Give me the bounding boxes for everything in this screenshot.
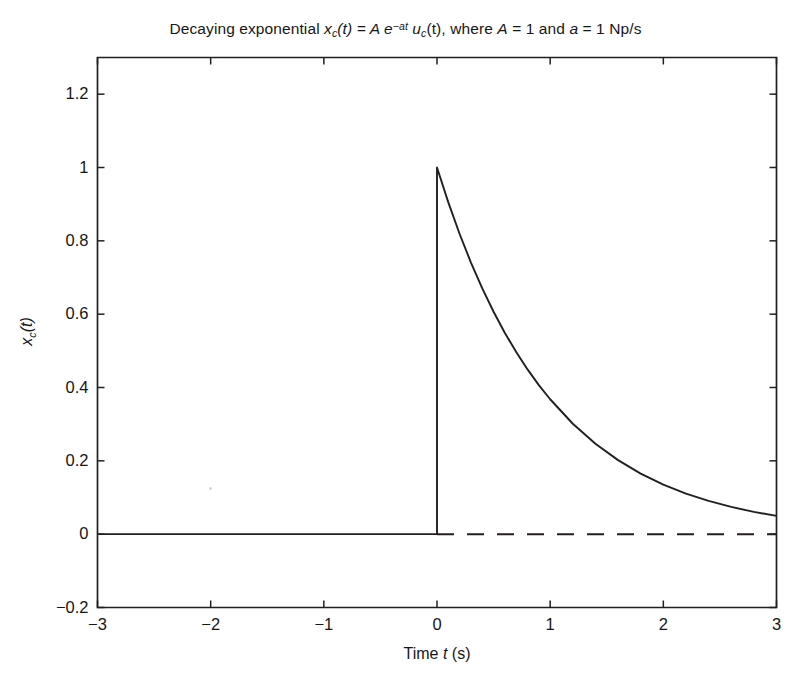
plot-area [0,0,811,692]
x-tick-label: −3 [58,615,138,634]
xlabel-pre: Time [404,645,443,662]
x-tick-label: 0 [397,615,477,634]
y-tick-label: 0.4 [66,378,89,397]
y-tick-label: 0 [79,524,88,543]
y-tick-label: 0.6 [66,304,89,323]
y-tick-label: 1 [79,158,88,177]
y-tick-label: 0.2 [66,451,89,470]
data-series-group [98,168,777,535]
series-decaying-exponential [98,168,777,535]
ylabel-argument: (t) [18,317,35,332]
ylabel-subscript: c [26,332,38,337]
x-tick-label: −2 [171,615,251,634]
x-tick-label: 3 [737,615,811,634]
figure-canvas: Decaying exponential xc(t) = A e−at uc(t… [0,0,811,692]
x-tick-label: −1 [284,615,364,634]
ylabel-symbol: x [18,337,35,345]
x-tick-label: 1 [510,615,590,634]
x-tick-label: 2 [623,615,703,634]
x-axis-label: Time t (s) [32,645,811,663]
y-tick-label: 0.8 [66,231,89,250]
xlabel-post: (s) [447,645,470,662]
y-axis-label: xc(t) [18,271,37,391]
y-tick-label: 1.2 [66,84,89,103]
